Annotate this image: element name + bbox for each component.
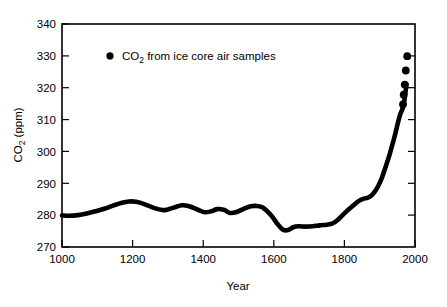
x-tick-label: 1600 xyxy=(261,253,287,265)
chart-svg: 270 280 290 300 310 320 330 340 1000 120… xyxy=(0,0,447,307)
legend-label-post: from ice core air samples xyxy=(144,50,276,62)
y-tick-label: 280 xyxy=(37,209,56,221)
y-tick-label: 320 xyxy=(37,82,56,94)
legend-label-pre: CO xyxy=(122,50,139,62)
data-point xyxy=(400,91,408,99)
y-tick-label: 340 xyxy=(37,18,56,30)
data-point xyxy=(401,81,409,89)
x-tick-label: 1800 xyxy=(332,253,358,265)
co2-ice-core-chart: 270 280 290 300 310 320 330 340 1000 120… xyxy=(0,0,447,307)
data-point xyxy=(399,100,407,108)
x-tick-label: 1400 xyxy=(190,253,216,265)
x-tick-label: 2000 xyxy=(402,253,428,265)
y-tick-label: 270 xyxy=(37,241,56,253)
x-axis-title: Year xyxy=(226,280,249,292)
y-axis-title-post: (ppm) xyxy=(12,107,24,140)
x-tick-label: 1200 xyxy=(120,253,146,265)
legend-marker-icon xyxy=(106,52,113,59)
y-tick-label: 310 xyxy=(37,114,56,126)
data-point xyxy=(402,67,410,75)
y-axis-title-pre: CO xyxy=(12,145,24,162)
y-tick-label: 290 xyxy=(37,178,56,190)
y-tick-label: 330 xyxy=(37,50,56,62)
x-tick-label: 1000 xyxy=(49,253,75,265)
y-tick-label: 300 xyxy=(37,146,56,158)
data-point xyxy=(403,52,411,60)
